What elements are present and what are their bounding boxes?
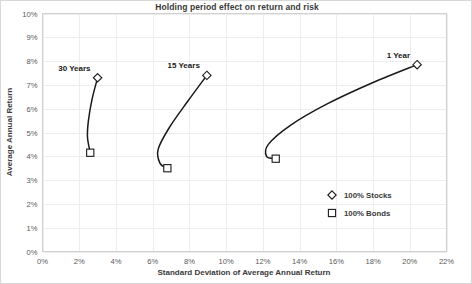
legend-square-icon xyxy=(328,209,335,216)
chart-container: Holding period effect on return and risk… xyxy=(0,0,472,284)
x-axis-title: Standard Deviation of Average Annual Ret… xyxy=(158,268,331,277)
series-curve xyxy=(87,78,97,153)
x-tick-label: 4% xyxy=(110,257,121,266)
x-tick-label: 10% xyxy=(219,257,234,266)
bonds-marker xyxy=(164,165,171,172)
y-tick-label: 10% xyxy=(22,10,37,19)
y-tick-label: 2% xyxy=(27,200,38,209)
legend-entry-label: 100% Stocks xyxy=(344,191,392,200)
series-annotation-label: 30 Years xyxy=(58,64,91,73)
x-tick-label: 22% xyxy=(439,257,454,266)
y-tick-label: 4% xyxy=(27,152,38,161)
y-tick-label: 8% xyxy=(27,57,38,66)
x-tick-label: 16% xyxy=(329,257,344,266)
series-annotation-label: 15 Years xyxy=(168,61,201,70)
x-tick-label: 18% xyxy=(365,257,380,266)
chart-plot-area: 0%2%4%6%8%10%12%14%16%18%20%22% 0%1%2%3%… xyxy=(1,1,472,284)
y-tick-label: 9% xyxy=(27,33,38,42)
y-tick-label: 5% xyxy=(27,129,38,138)
series-curve xyxy=(265,65,417,159)
y-tick-label: 6% xyxy=(27,105,38,114)
y-tick-label: 0% xyxy=(27,248,38,257)
stocks-marker xyxy=(93,74,101,82)
x-tick-labels: 0%2%4%6%8%10%12%14%16%18%20%22% xyxy=(37,257,454,266)
series-curves xyxy=(87,60,422,171)
legend-entry-label: 100% Bonds xyxy=(344,209,391,218)
series-annotation-label: 1 Year xyxy=(387,51,410,60)
x-tick-label: 0% xyxy=(37,257,48,266)
x-tick-label: 8% xyxy=(184,257,195,266)
y-tick-labels: 0%1%2%3%4%5%6%7%8%9%10% xyxy=(22,10,37,257)
bonds-marker xyxy=(87,149,94,156)
series-curve xyxy=(158,75,207,168)
x-tick-label: 14% xyxy=(292,257,307,266)
y-tick-label: 1% xyxy=(27,224,38,233)
y-tick-label: 7% xyxy=(27,81,38,90)
y-axis-title: Average Annual Return xyxy=(5,88,14,176)
y-tick-label: 3% xyxy=(27,176,38,185)
x-tick-label: 6% xyxy=(147,257,158,266)
x-tick-label: 12% xyxy=(255,257,270,266)
bonds-marker xyxy=(272,155,279,162)
x-tick-label: 2% xyxy=(74,257,85,266)
legend-diamond-icon xyxy=(328,191,336,199)
x-tick-label: 20% xyxy=(402,257,417,266)
